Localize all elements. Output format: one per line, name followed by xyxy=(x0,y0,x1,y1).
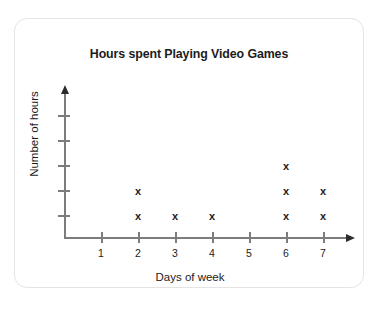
y-axis-title: Number of hours xyxy=(28,74,40,194)
x-axis-tick xyxy=(323,232,325,243)
data-mark: x xyxy=(130,211,146,222)
x-axis-tick-label: 4 xyxy=(200,247,224,259)
data-mark: x xyxy=(130,186,146,197)
x-axis-tick xyxy=(101,232,103,243)
x-axis-tick xyxy=(212,232,214,243)
x-axis-tick-label: 6 xyxy=(274,247,298,259)
data-mark: x xyxy=(315,186,331,197)
data-mark: x xyxy=(278,161,294,172)
x-axis-tick-label: 1 xyxy=(89,247,113,259)
data-mark: x xyxy=(278,186,294,197)
data-mark: x xyxy=(167,211,183,222)
y-axis-tick xyxy=(58,190,70,192)
x-axis-tick xyxy=(138,232,140,243)
data-mark: x xyxy=(315,211,331,222)
x-axis-tick xyxy=(249,232,251,243)
x-axis-tick-label: 2 xyxy=(126,247,150,259)
screenshot-root: Hours spent Playing Video Games 1234567 … xyxy=(0,0,386,310)
y-axis-tick xyxy=(58,215,70,217)
y-axis-tick xyxy=(58,115,70,117)
x-axis-tick-label: 7 xyxy=(311,247,335,259)
y-axis-tick xyxy=(58,140,70,142)
data-mark: x xyxy=(278,211,294,222)
y-axis-tick xyxy=(58,165,70,167)
x-axis-arrow-icon xyxy=(346,234,355,242)
x-axis-tick-label: 3 xyxy=(163,247,187,259)
x-axis-tick xyxy=(286,232,288,243)
y-axis-arrow-icon xyxy=(61,85,69,94)
x-axis-title: Days of week xyxy=(15,271,365,283)
plot-area: 1234567 xxxxxxxxx Days of week Number of… xyxy=(15,19,365,289)
x-axis-tick xyxy=(175,232,177,243)
x-axis-tick-label: 5 xyxy=(237,247,261,259)
x-axis-line xyxy=(64,237,350,239)
chart-card: Hours spent Playing Video Games 1234567 … xyxy=(14,18,364,288)
data-mark: x xyxy=(204,211,220,222)
